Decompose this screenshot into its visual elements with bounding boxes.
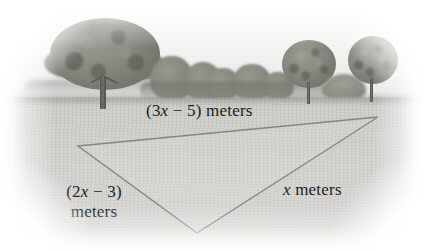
label-top-constant: 5	[187, 101, 196, 120]
label-left-operator: −	[89, 182, 108, 201]
label-top-unit: meters	[202, 101, 253, 120]
label-top-side: (3x − 5) meters	[146, 101, 253, 121]
label-top-coefficient: 3	[152, 101, 161, 120]
label-left-unit: meters	[71, 202, 118, 221]
label-right-unit: meters	[291, 180, 342, 199]
label-left-close-paren: )	[116, 182, 122, 201]
label-right-variable: x	[283, 180, 291, 199]
label-left-constant: 3	[107, 182, 116, 201]
label-left-side: (2x − 3)meters	[42, 182, 146, 222]
label-left-coefficient: 2	[72, 182, 81, 201]
label-top-operator: −	[168, 101, 187, 120]
label-left-variable: x	[81, 182, 89, 201]
geometry-figure: (3x − 5) meters (2x − 3)meters x meters	[0, 0, 424, 251]
label-right-side: x meters	[283, 180, 342, 200]
